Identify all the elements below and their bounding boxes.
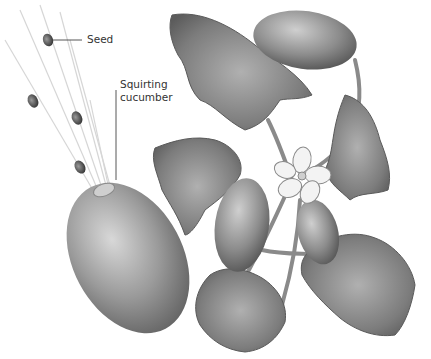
illustration-stage: Seed Squirting cucumber xyxy=(0,0,431,359)
leaf-right-upper xyxy=(325,95,390,200)
seed-label: Seed xyxy=(87,33,113,46)
seed-icon xyxy=(70,110,85,127)
leaf-bottom-center xyxy=(196,269,286,352)
squirting-cucumber-label-line1: Squirting xyxy=(120,78,200,91)
squirting-cucumber-label: Squirting cucumber xyxy=(120,78,200,104)
squirting-cucumber-label-line2: cucumber xyxy=(120,91,200,104)
squirting-cucumber-illustration xyxy=(0,0,431,359)
seed-icon xyxy=(26,93,41,110)
